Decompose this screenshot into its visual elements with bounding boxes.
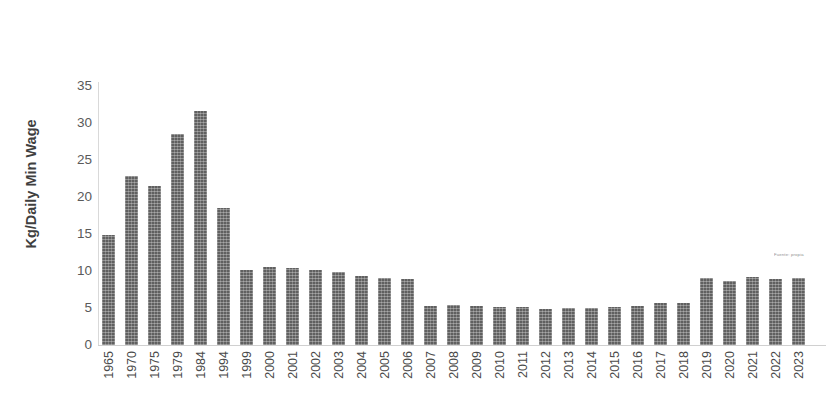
bar: [493, 307, 506, 345]
x-axis-tick-label: 2018: [677, 349, 690, 393]
x-axis-tick-label: 2008: [447, 349, 460, 393]
x-axis-tick-label: 1999: [240, 349, 253, 393]
bar: [263, 267, 276, 345]
bar: [240, 270, 253, 345]
x-axis-tick-label-text: 2010: [493, 351, 506, 379]
x-axis-tick-label-text: 2011: [516, 351, 529, 378]
x-axis-tick-label: 2019: [700, 349, 713, 393]
y-axis-tick-label: 25: [58, 153, 92, 167]
x-axis-tick-label: 2001: [286, 349, 299, 393]
y-axis-tick-label: 35: [58, 79, 92, 93]
y-axis-tick-label: 30: [58, 116, 92, 130]
x-axis-tick-label-text: 2021: [746, 351, 759, 379]
bar: [194, 111, 207, 345]
x-axis-tick-label-text: 2000: [263, 351, 276, 379]
x-axis-tick-label: 1984: [194, 349, 207, 393]
x-axis-tick-label: 2013: [562, 349, 575, 393]
x-axis-tick-label: 1970: [125, 349, 138, 393]
x-axis-tick-label: 1965: [102, 349, 115, 393]
x-axis-tick-label-text: 2022: [769, 351, 782, 379]
x-axis-tick-label: 2022: [769, 349, 782, 393]
x-axis-tick-label: 2007: [424, 349, 437, 393]
bar: [539, 309, 552, 345]
bar: [171, 134, 184, 345]
x-axis-tick-label-text: 1970: [125, 351, 138, 379]
x-axis-tick-label-text: 2001: [286, 351, 299, 379]
x-axis-tick-label-text: 2017: [654, 351, 667, 379]
x-axis-tick-labels: 1965197019751979198419941999200020012002…: [98, 349, 828, 396]
bar: [355, 276, 368, 345]
x-axis-tick-label: 1994: [217, 349, 230, 393]
x-axis-tick-label-text: 2016: [631, 351, 644, 379]
x-axis-tick-label-text: 2023: [792, 351, 805, 379]
x-axis-tick-label-text: 1994: [217, 351, 230, 379]
x-axis-tick-label-text: 2018: [677, 351, 690, 379]
bar: [217, 208, 230, 345]
x-axis-tick-label-text: 2020: [723, 351, 736, 379]
bar: [746, 277, 759, 345]
bar-series: [98, 0, 828, 396]
bar: [608, 307, 621, 345]
bar: [677, 303, 690, 345]
x-axis-tick-label-text: 2007: [424, 351, 437, 379]
x-axis-tick-label-text: 2015: [608, 351, 621, 379]
bar: [769, 279, 782, 345]
x-axis-tick-label: 2012: [539, 349, 552, 393]
y-axis-tick-labels: 05101520253035: [50, 0, 92, 396]
x-axis-tick-label: 2016: [631, 349, 644, 393]
x-axis-tick-label: 2004: [355, 349, 368, 393]
source-watermark: Fuente: propia: [774, 252, 804, 257]
bar: [585, 308, 598, 345]
bar: [401, 279, 414, 345]
bar: [309, 270, 322, 345]
bar: [447, 305, 460, 345]
x-axis-tick-label: 2010: [493, 349, 506, 393]
x-axis-tick-label-text: 2002: [309, 351, 322, 379]
bar-chart: Kg/Daily Min Wage 05101520253035 1965197…: [0, 0, 836, 396]
x-axis-tick-label-text: 2013: [562, 351, 575, 379]
bar: [654, 303, 667, 345]
x-axis-tick-label: 2003: [332, 349, 345, 393]
bar: [723, 281, 736, 345]
x-axis-tick-label: 1975: [148, 349, 161, 393]
bar: [125, 176, 138, 345]
x-axis-tick-label-text: 2019: [700, 351, 713, 379]
bar: [631, 306, 644, 345]
y-axis-tick-label: 10: [58, 264, 92, 278]
x-axis-tick-label-text: 2004: [355, 351, 368, 379]
y-axis-tick-label: 0: [58, 338, 92, 352]
bar: [424, 306, 437, 345]
x-axis-tick-label-text: 2014: [585, 351, 598, 379]
bar: [332, 272, 345, 345]
x-axis-tick-label: 2020: [723, 349, 736, 393]
bar: [102, 235, 115, 345]
bar: [148, 186, 161, 345]
y-axis-title: Kg/Daily Min Wage: [14, 0, 48, 396]
x-axis-tick-label-text: 2009: [470, 351, 483, 379]
y-axis-title-label: Kg/Daily Min Wage: [23, 119, 39, 248]
x-axis-tick-label-text: 1979: [171, 351, 184, 379]
bar: [562, 308, 575, 345]
x-axis-tick-label-text: 2006: [401, 351, 414, 379]
x-axis-tick-label-text: 2005: [378, 351, 391, 379]
x-axis-tick-label-text: 1975: [148, 351, 161, 379]
x-axis-tick-label-text: 2008: [447, 351, 460, 379]
x-axis-tick-label-text: 1984: [194, 351, 207, 379]
x-axis-tick-label: 2009: [470, 349, 483, 393]
x-axis-tick-label: 2011: [516, 349, 529, 393]
x-axis-tick-label: 2015: [608, 349, 621, 393]
x-axis-tick-label: 2014: [585, 349, 598, 393]
x-axis-tick-label: 2000: [263, 349, 276, 393]
bar: [470, 306, 483, 345]
bar: [378, 278, 391, 345]
x-axis-tick-label: 2017: [654, 349, 667, 393]
bar: [792, 278, 805, 345]
y-axis-tick-label: 15: [58, 227, 92, 241]
x-axis-tick-label: 1979: [171, 349, 184, 393]
x-axis-tick-label: 2021: [746, 349, 759, 393]
x-axis-tick-label: 2005: [378, 349, 391, 393]
x-axis-tick-label: 2023: [792, 349, 805, 393]
bar: [700, 278, 713, 345]
x-axis-tick-label-text: 2012: [539, 351, 552, 379]
x-axis-tick-label-text: 2003: [332, 351, 345, 379]
